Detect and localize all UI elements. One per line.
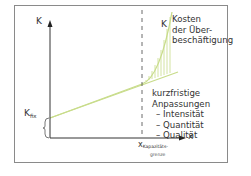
fixed-cost-label: Kfix	[24, 109, 37, 120]
overemployment-line-1: Kosten	[172, 14, 233, 25]
curve-label: K	[161, 20, 167, 29]
fixed-cost-brace	[43, 118, 49, 138]
y-axis-label: K	[36, 17, 42, 26]
adjustments-title-2: Anpassungen	[152, 99, 210, 110]
adjustments-title-1: kurzfristige	[152, 88, 210, 99]
overemployment-line-3: beschäftigung	[172, 35, 233, 46]
capacity-limit-label-2: grenze	[150, 153, 165, 158]
y-axis-arrow-icon	[48, 20, 53, 27]
adjustment-intensity: – Intensität	[152, 109, 210, 120]
adjustment-quantity: – Quantität	[152, 120, 210, 131]
capacity-sub: Kapazitäts-	[143, 144, 168, 149]
overemployment-line-2: der Über-	[172, 25, 233, 36]
short-term-adjustments: kurzfristige Anpassungen – Intensität – …	[152, 88, 210, 141]
capacity-limit-label: xKapazitäts-	[138, 141, 168, 150]
adjustment-quality: – Qualität	[152, 130, 210, 141]
overemployment-cost-label: Kosten der Über- beschäftigung	[172, 14, 233, 46]
fixed-cost-sub: fix	[30, 113, 37, 119]
